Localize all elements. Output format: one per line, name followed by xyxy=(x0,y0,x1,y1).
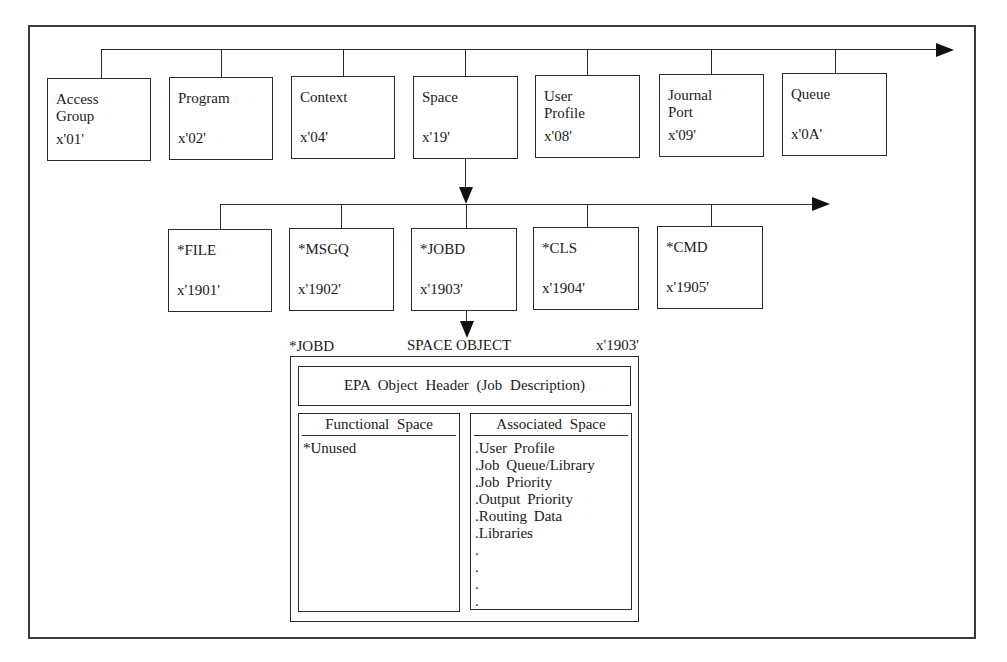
object-type-journal-port: Journal Port x'09' xyxy=(659,74,764,157)
object-type-code: x'01' xyxy=(56,131,84,148)
connector xyxy=(220,204,221,229)
space-object-right-label: x'1903' xyxy=(596,337,639,354)
space-object-left-label: *JOBD xyxy=(289,338,334,355)
connector xyxy=(341,204,342,228)
associated-space-list: .User Profile .Job Queue/Library .Job Pr… xyxy=(471,436,631,610)
list-item: . xyxy=(475,542,631,559)
object-type-code: x'0A' xyxy=(791,126,822,143)
object-type-queue: Queue x'0A' xyxy=(782,73,887,156)
object-type-name: User Profile xyxy=(544,88,585,122)
object-type-program: Program x'02' xyxy=(169,77,273,160)
space-subtype-connector-line xyxy=(220,204,814,205)
object-type-code: x'04' xyxy=(300,129,328,146)
list-item: .Output Priority xyxy=(475,491,631,508)
subtype-code: x'1902' xyxy=(298,281,341,298)
object-type-name: Queue xyxy=(791,86,830,103)
functional-space-list: *Unused xyxy=(299,436,459,457)
subtype-name: *MSGQ xyxy=(298,241,349,258)
connector xyxy=(587,49,588,76)
object-type-space: Space x'19' xyxy=(413,76,518,159)
subtype-name: *CLS xyxy=(542,240,577,257)
list-item: .User Profile xyxy=(475,440,631,457)
object-type-name: Journal Port xyxy=(668,87,712,121)
list-item: . xyxy=(475,559,631,576)
subtype-name: *FILE xyxy=(177,242,216,259)
subtype-code: x'1905' xyxy=(666,279,709,296)
object-type-name: Context xyxy=(300,89,348,106)
list-item: *Unused xyxy=(303,440,459,457)
space-subtype-msgq: *MSGQ x'1902' xyxy=(289,228,394,311)
arrow-down-icon xyxy=(460,321,474,338)
object-type-name: Space xyxy=(422,89,458,106)
list-item: .Routing Data xyxy=(475,508,631,525)
connector xyxy=(711,49,712,75)
connector xyxy=(466,204,467,228)
list-item: .Job Priority xyxy=(475,474,631,491)
space-subtype-cmd: *CMD x'1905' xyxy=(657,226,763,309)
connector xyxy=(587,204,588,227)
subtype-name: *CMD xyxy=(666,239,708,256)
space-subtype-file: *FILE x'1901' xyxy=(168,229,272,312)
object-type-user-profile: User Profile x'08' xyxy=(535,75,640,158)
connector xyxy=(711,204,712,226)
object-type-code: x'09' xyxy=(668,127,696,144)
list-item: .Libraries xyxy=(475,525,631,542)
subtype-name: *JOBD xyxy=(420,241,465,258)
functional-space-panel: Functional Space *Unused xyxy=(298,413,460,612)
connector xyxy=(465,49,466,76)
associated-space-title: Associated Space xyxy=(474,414,628,436)
associated-space-panel: Associated Space .User Profile .Job Queu… xyxy=(470,413,632,610)
connector xyxy=(835,49,836,74)
object-type-name: Access Group xyxy=(56,91,98,125)
object-type-context: Context x'04' xyxy=(291,76,395,159)
list-item: . xyxy=(475,593,631,610)
epa-object-header: EPA Object Header (Job Description) xyxy=(298,366,631,406)
list-item: . xyxy=(475,576,631,593)
space-subtype-jobd: *JOBD x'1903' xyxy=(411,228,517,311)
object-type-code: x'08' xyxy=(544,128,572,145)
subtype-code: x'1901' xyxy=(177,282,220,299)
connector xyxy=(101,49,102,78)
subtype-code: x'1903' xyxy=(420,281,463,298)
object-type-code: x'02' xyxy=(178,130,206,147)
space-object-title: SPACE OBJECT xyxy=(407,337,511,354)
object-type-code: x'19' xyxy=(422,129,450,146)
space-down-connector xyxy=(465,159,466,189)
arrow-right-icon xyxy=(812,197,830,211)
arrow-right-icon xyxy=(936,43,954,57)
functional-space-title: Functional Space xyxy=(302,414,456,436)
subtype-code: x'1904' xyxy=(542,280,585,297)
space-subtype-cls: *CLS x'1904' xyxy=(533,227,639,310)
list-item: .Job Queue/Library xyxy=(475,457,631,474)
object-type-access-group: Access Group x'01' xyxy=(47,78,151,161)
connector xyxy=(221,49,222,78)
object-type-name: Program xyxy=(178,90,230,107)
connector xyxy=(343,49,344,77)
top-level-connector-line xyxy=(101,49,937,50)
arrow-down-icon xyxy=(459,187,473,204)
